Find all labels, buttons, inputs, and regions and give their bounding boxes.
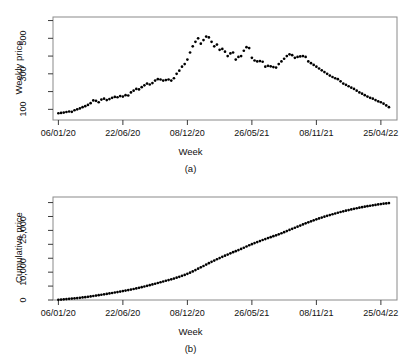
panel-b-data-points: [57, 202, 390, 301]
panel-a-x-tick-label: 06/01/20: [30, 128, 86, 138]
panel-b-y-tick-label: 10,000: [17, 249, 29, 295]
panel-b-y-tick-label: 25,000: [17, 207, 29, 253]
panel-a-data-points: [57, 35, 390, 114]
panel-a-x-tick-label: 25/04/22: [353, 128, 409, 138]
weekly-price-scatter-chart: [0, 0, 417, 140]
panel-a-x-tick-label: 08/12/20: [159, 128, 215, 138]
panel-label-a: (a): [0, 163, 399, 174]
figure-panel-a: Weekly price Week (a) 10030050006/01/202…: [0, 0, 417, 180]
panel-label-b: (b): [0, 343, 399, 354]
x-axis-title-b: Week: [0, 326, 399, 337]
panel-b-x-tick-label: 08/11/21: [288, 308, 344, 318]
panel-a-x-tick-label: 08/11/21: [288, 128, 344, 138]
cumulative-price-line-chart: [0, 180, 417, 320]
panel-b-x-tick-label: 06/01/20: [30, 308, 86, 318]
panel-a-y-tick-label: 500: [17, 15, 29, 61]
panel-a-x-tick-label: 22/06/20: [95, 128, 151, 138]
figure-panel-b: Cumulative price Week (b) 010,00025,0000…: [0, 180, 417, 359]
plot-area-cumulative-price: [0, 180, 417, 320]
panel-b-x-tick-label: 22/06/20: [95, 308, 151, 318]
panel-b-plot-frame: [53, 197, 397, 300]
panel-b-x-tick-label: 08/12/20: [159, 308, 215, 318]
plot-area-weekly-price: [0, 0, 417, 140]
x-axis-title-a: Week: [0, 146, 399, 157]
panel-b-x-tick-label: 26/05/21: [224, 308, 280, 318]
panel-a-x-tick-label: 26/05/21: [224, 128, 280, 138]
panel-b-x-tick-label: 25/04/22: [353, 308, 409, 318]
panel-a-plot-frame: [53, 17, 397, 120]
